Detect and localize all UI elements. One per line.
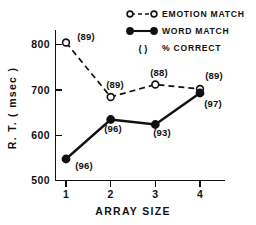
emotion-match-label-4: (89) (205, 70, 223, 81)
x-tick-labels: 1 2 3 4 (63, 188, 203, 200)
emotion-match-point-3 (152, 81, 159, 88)
legend-entry-percent-correct-note: ( ) % CORRECT (139, 43, 222, 54)
legend-label-percent-correct: % CORRECT (162, 43, 221, 53)
word-match-label-1: (96) (75, 160, 93, 171)
legend-open-circle-icon-right (151, 11, 157, 17)
series-word-match: (96) (96) (93) (97) (62, 89, 221, 171)
legend-open-circle-icon-left (127, 11, 133, 17)
legend-entry-emotion-match: EMOTION MATCH (127, 9, 245, 19)
word-match-point-1 (62, 155, 69, 162)
reaction-time-line-chart: 800 700 600 500 1 2 3 4 ARRAY SIZE R. T.… (0, 0, 256, 225)
legend-filled-circle-icon-left (127, 28, 133, 34)
y-tick-label-700: 700 (31, 84, 50, 96)
x-axis-title: ARRAY SIZE (95, 205, 170, 217)
x-tick-label-4: 4 (197, 188, 203, 200)
emotion-match-label-1: (89) (77, 31, 95, 42)
y-tick-label-800: 800 (31, 38, 50, 50)
word-match-line (66, 93, 200, 159)
legend-filled-circle-icon-right (151, 28, 157, 34)
emotion-match-label-2: (89) (106, 79, 124, 90)
legend-label-emotion-match: EMOTION MATCH (162, 9, 245, 19)
y-tick-label-600: 600 (31, 129, 50, 141)
word-match-point-4 (196, 89, 203, 96)
emotion-match-point-2 (107, 94, 114, 101)
chart-figure: 800 700 600 500 1 2 3 4 ARRAY SIZE R. T.… (0, 0, 256, 225)
word-match-label-2: (96) (104, 123, 122, 134)
chart-legend: EMOTION MATCH WORD MATCH ( ) % CORRECT (127, 9, 245, 54)
word-match-label-4: (97) (204, 98, 222, 109)
y-tick-labels: 800 700 600 500 (31, 38, 50, 186)
emotion-match-label-3: (88) (150, 67, 168, 78)
x-tick-label-3: 3 (152, 188, 158, 200)
word-match-label-3: (93) (153, 127, 171, 138)
x-tick-label-2: 2 (108, 188, 114, 200)
y-axis-title: R. T. ( msec ) (6, 67, 18, 149)
x-tick-label-1: 1 (63, 188, 69, 200)
emotion-match-point-1 (63, 39, 70, 46)
y-tick-label-500: 500 (31, 174, 50, 186)
legend-paren-glyph: ( ) (139, 43, 148, 54)
legend-entry-word-match: WORD MATCH (127, 26, 230, 36)
legend-label-word-match: WORD MATCH (162, 26, 229, 36)
